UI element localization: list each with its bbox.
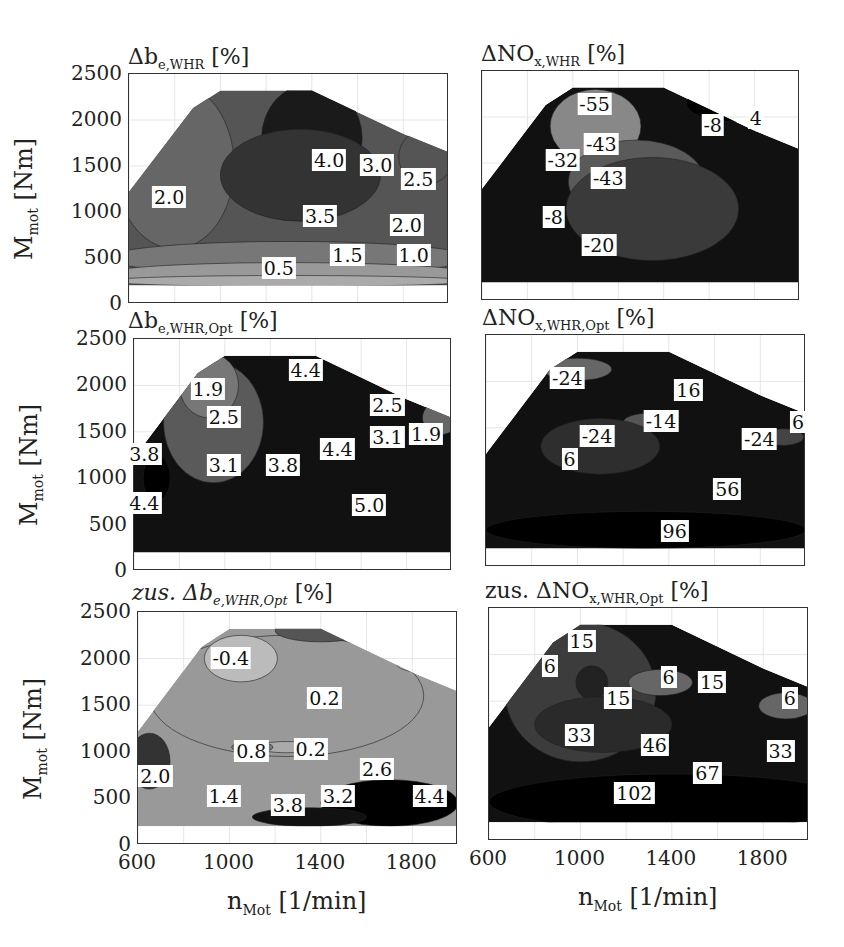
title-main: Δb bbox=[128, 308, 158, 333]
panel-title: zus. ΔNOx,WHR,Opt [%] bbox=[485, 578, 709, 606]
y-tick-label: 500 bbox=[52, 245, 122, 269]
y-tick-label: 2500 bbox=[61, 599, 131, 623]
title-main: ΔNO bbox=[482, 305, 535, 330]
y-tick-label: 2500 bbox=[52, 61, 122, 85]
y-tick-label: 1000 bbox=[61, 739, 131, 763]
contour-label: 1.4 bbox=[207, 785, 241, 807]
y-tick-label: 1500 bbox=[52, 153, 122, 177]
contour-label: 2.0 bbox=[138, 765, 172, 787]
contour-label: 6 bbox=[790, 411, 806, 433]
x-tick-label: 1400 bbox=[636, 846, 706, 870]
contour-label: 0.8 bbox=[234, 740, 268, 762]
xlabel-sub: Mot bbox=[593, 898, 621, 914]
contour-label: 0.2 bbox=[307, 687, 341, 709]
ylabel-unit: [Nm] bbox=[15, 404, 43, 474]
contour-label: 1.9 bbox=[409, 423, 443, 445]
x-tick-label: 1800 bbox=[376, 850, 446, 874]
contour-label: -8 bbox=[542, 206, 565, 228]
ylabel-sub: mot bbox=[34, 748, 50, 775]
contour-label: 3.5 bbox=[303, 205, 337, 227]
x-tick-label: 600 bbox=[102, 850, 172, 874]
contour-label: 1.9 bbox=[191, 378, 225, 400]
contour-label: 0.5 bbox=[262, 257, 296, 279]
panel-title: ΔNOx,WHR [%] bbox=[481, 41, 625, 69]
contour-label: 2.6 bbox=[360, 758, 394, 780]
xlabel-sub: Mot bbox=[242, 902, 270, 918]
title-subscript: e,WHR,Opt bbox=[158, 321, 233, 336]
contour-label: 3.1 bbox=[370, 426, 404, 448]
y-tick-label: 1500 bbox=[61, 692, 131, 716]
contour-label: 0.2 bbox=[294, 738, 328, 760]
xlabel-main: n bbox=[227, 887, 242, 915]
contour-label: -0.4 bbox=[210, 647, 251, 669]
title-subscript: x,WHR bbox=[534, 54, 580, 69]
contour-label: 1.0 bbox=[397, 244, 431, 266]
title-unit: [%] bbox=[288, 580, 333, 605]
ylabel-main: M bbox=[10, 235, 38, 260]
contour-label: 16 bbox=[674, 379, 702, 401]
panel-title: Δbe,WHR [%] bbox=[128, 44, 249, 72]
panel-title: zus. Δbe,WHR,Opt [%] bbox=[132, 580, 333, 608]
contour-label: 15 bbox=[604, 687, 632, 709]
plot-area bbox=[488, 607, 808, 840]
title-subscript: x,WHR,Opt bbox=[589, 591, 663, 606]
contour-label: 2.5 bbox=[207, 406, 241, 428]
contour-label: 3.1 bbox=[207, 454, 241, 476]
contour-label: 6 bbox=[562, 448, 578, 470]
y-tick-label: 2000 bbox=[57, 372, 127, 396]
ylabel-unit: [Nm] bbox=[10, 138, 38, 208]
contour-label: 3.2 bbox=[321, 785, 355, 807]
y-tick-label: 1500 bbox=[57, 419, 127, 443]
contour-label: 3.8 bbox=[266, 454, 300, 476]
contour-label: 3.8 bbox=[127, 443, 161, 465]
contour-label: -8 bbox=[701, 114, 724, 136]
plot-area bbox=[485, 334, 805, 566]
contour-label: 33 bbox=[565, 724, 593, 746]
y-tick-label: 1000 bbox=[52, 199, 122, 223]
contour-label: 15 bbox=[698, 671, 726, 693]
contour-label: -43 bbox=[584, 133, 619, 155]
panel-title: Δbe,WHR,Opt [%] bbox=[128, 308, 278, 336]
contour-label: -55 bbox=[577, 93, 612, 115]
contour-label: 2.0 bbox=[152, 186, 186, 208]
title-main: Δb bbox=[128, 44, 158, 69]
contour-label: 2.5 bbox=[401, 168, 435, 190]
title-unit: [%] bbox=[580, 41, 625, 66]
contour-label: 3.0 bbox=[360, 154, 394, 176]
contour-label: -24 bbox=[580, 425, 615, 447]
y-axis-label: Mmot [Nm] bbox=[15, 404, 46, 526]
y-axis-label: Mmot [Nm] bbox=[10, 138, 41, 260]
contour-label: 102 bbox=[614, 782, 654, 804]
contour-label: 2.0 bbox=[390, 214, 424, 236]
plot-area bbox=[481, 70, 799, 300]
y-tick-label: 500 bbox=[61, 785, 131, 809]
contour-label: 5.0 bbox=[352, 494, 386, 516]
xlabel-unit: [1/min] bbox=[271, 887, 367, 915]
title-main: ΔNO bbox=[481, 41, 534, 66]
title-subscript: e,WHR,Opt bbox=[213, 593, 288, 608]
contour-svg bbox=[489, 608, 808, 840]
ylabel-unit: [Nm] bbox=[19, 677, 47, 747]
contour-svg bbox=[486, 335, 805, 566]
contour-label: 6 bbox=[661, 666, 677, 688]
contour-label: 6 bbox=[782, 687, 798, 709]
ylabel-sub: mot bbox=[30, 474, 46, 501]
title-main: zus. ΔNO bbox=[485, 578, 589, 603]
contour-label: -32 bbox=[545, 149, 580, 171]
ylabel-main: M bbox=[15, 501, 43, 526]
x-axis-label: nMot [1/min] bbox=[227, 887, 366, 918]
xlabel-main: n bbox=[578, 883, 593, 911]
contour-label: 3.8 bbox=[271, 794, 305, 816]
contour-label: 4.4 bbox=[289, 359, 323, 381]
y-tick-label: 0 bbox=[57, 558, 127, 582]
contour-label: 33 bbox=[766, 740, 794, 762]
contour-label: -43 bbox=[591, 167, 626, 189]
contour-label: 96 bbox=[661, 520, 689, 542]
contour-label: 67 bbox=[693, 762, 721, 784]
title-subscript: e,WHR bbox=[158, 57, 204, 72]
contour-label: -24 bbox=[550, 367, 585, 389]
contour-label: 4.4 bbox=[412, 785, 446, 807]
contour-label: -24 bbox=[742, 428, 777, 450]
ylabel-main: M bbox=[19, 775, 47, 800]
contour-label: 4.0 bbox=[312, 149, 346, 171]
